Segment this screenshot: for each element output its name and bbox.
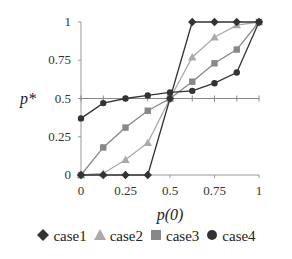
- legend-label: case3: [166, 228, 199, 244]
- y-tick-label: 0.5: [55, 91, 71, 106]
- y-tick-label: 0: [65, 167, 72, 182]
- x-tick-label: 0.5: [162, 183, 178, 198]
- y-tick-label: 0.75: [48, 52, 71, 67]
- series-case4: [78, 19, 262, 122]
- legend-item-case1: case1: [36, 228, 86, 245]
- legend: case1case2case3case4: [0, 228, 292, 245]
- x-tick-label: 0.25: [114, 183, 137, 198]
- x-tick-label: 0.75: [203, 183, 226, 198]
- x-tick-label: 1: [256, 183, 263, 198]
- y-tick-label: 1: [65, 14, 72, 29]
- x-axis-title: p(0): [156, 206, 184, 224]
- diamond-icon: [36, 228, 50, 242]
- y-tick-label: 0.25: [48, 129, 71, 144]
- legend-item-case3: case3: [149, 228, 199, 245]
- square-icon: [149, 228, 163, 242]
- legend-label: case4: [222, 228, 255, 244]
- chart-plot-area: 00.250.50.75100.250.50.751 p(0) p*: [0, 0, 292, 225]
- x-tick-label: 0: [78, 183, 85, 198]
- legend-label: case1: [53, 228, 86, 244]
- legend-item-case2: case2: [93, 228, 143, 245]
- legend-item-case4: case4: [205, 228, 255, 245]
- y-axis-title: p*: [19, 90, 36, 108]
- triangle-icon: [93, 228, 107, 242]
- legend-label: case2: [110, 228, 143, 244]
- circle-icon: [205, 228, 219, 242]
